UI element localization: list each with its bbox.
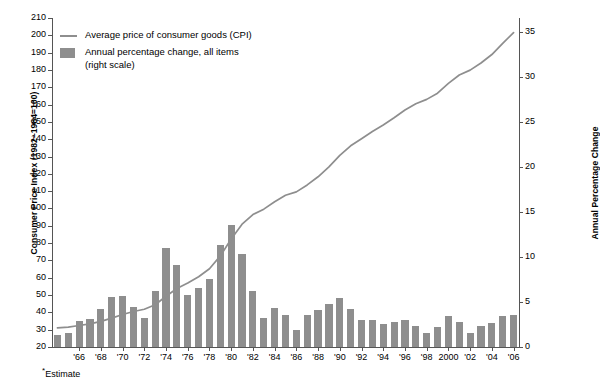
x-tick-mark [448, 348, 449, 351]
bar-swatch-icon [60, 48, 75, 58]
x-tick-mark [101, 348, 102, 351]
x-tick-label: '96 [399, 352, 411, 362]
chart-legend: Average price of consumer goods (CPI) An… [60, 28, 360, 75]
x-tick-mark [209, 348, 210, 351]
x-tick-label: '06 [508, 352, 520, 362]
y-left-tick-label: 120 [20, 169, 46, 178]
x-tick-label: 2000 [438, 352, 458, 362]
x-tick-mark [79, 348, 80, 351]
x-tick-mark [514, 348, 515, 351]
y-left-tick-label: 80 [20, 238, 46, 247]
x-tick-mark [405, 348, 406, 351]
y-left-tick-label: 70 [20, 255, 46, 264]
x-tick-mark [340, 348, 341, 351]
y-axis-right-title: Annual Percentage Change [590, 93, 600, 273]
legend-label-cpi: Average price of consumer goods (CPI) [85, 28, 252, 42]
x-tick-mark [383, 348, 384, 351]
y-right-tick-label: 15 [525, 207, 551, 216]
y-right-tick-label: 0 [525, 342, 551, 351]
x-tick-mark [166, 348, 167, 351]
y-axis-right-ticks: 35302520151050 [525, 0, 551, 386]
x-tick-label: '04 [486, 352, 498, 362]
x-tick-label: '92 [356, 352, 368, 362]
x-tick-mark [275, 348, 276, 351]
x-tick-label: '02 [464, 352, 476, 362]
x-tick-label: '74 [160, 352, 172, 362]
y-right-tick-label: 25 [525, 117, 551, 126]
footnote-text: Estimate [45, 369, 80, 379]
x-tick-label: '72 [138, 352, 150, 362]
y-left-tick-label: 210 [20, 13, 46, 22]
x-tick-label: '98 [421, 352, 433, 362]
y-left-tick-label: 190 [20, 48, 46, 57]
cpi-line-path [57, 33, 513, 328]
x-tick-label: '76 [182, 352, 194, 362]
x-tick-label: '84 [269, 352, 281, 362]
y-left-tick-label: 90 [20, 221, 46, 230]
x-tick-label: '86 [290, 352, 302, 362]
y-left-tick-label: 180 [20, 65, 46, 74]
y-right-tick-label: 30 [525, 72, 551, 81]
y-right-tick-label: 5 [525, 297, 551, 306]
x-tick-label: '68 [95, 352, 107, 362]
legend-label-annual-change: Annual percentage change, all items [85, 45, 239, 59]
y-left-tick-label: 100 [20, 203, 46, 212]
x-tick-label: '94 [377, 352, 389, 362]
y-right-tick-label: 20 [525, 162, 551, 171]
y-left-tick-label: 40 [20, 307, 46, 316]
y-left-tick-label: 200 [20, 30, 46, 39]
x-axis-labels: '66'68'70'72'74'76'78'80'82'84'86'88'90'… [0, 352, 592, 368]
y-left-tick-label: 150 [20, 117, 46, 126]
x-tick-label: '80 [225, 352, 237, 362]
x-tick-label: '78 [204, 352, 216, 362]
x-tick-mark [362, 348, 363, 351]
y-left-tick-label: 160 [20, 100, 46, 109]
x-tick-label: '70 [117, 352, 129, 362]
x-tick-mark [318, 348, 319, 351]
y-right-tick-label: 10 [525, 252, 551, 261]
y-left-tick-label: 20 [20, 342, 46, 351]
legend-item-annual-change: Annual percentage change, all items (rig… [60, 45, 360, 73]
x-tick-mark [188, 348, 189, 351]
y-left-tick-label: 130 [20, 152, 46, 161]
y-left-tick-label: 170 [20, 82, 46, 91]
x-tick-mark [144, 348, 145, 351]
x-tick-mark [492, 348, 493, 351]
x-tick-mark [231, 348, 232, 351]
y-left-tick-label: 60 [20, 273, 46, 282]
x-tick-mark [123, 348, 124, 351]
y-left-tick-label: 50 [20, 290, 46, 299]
x-tick-label: '88 [312, 352, 324, 362]
y-left-tick-label: 30 [20, 325, 46, 334]
line-swatch-icon [60, 35, 77, 37]
y-right-tick-label: 35 [525, 27, 551, 36]
legend-item-cpi-line: Average price of consumer goods (CPI) [60, 28, 360, 43]
x-tick-mark [296, 348, 297, 351]
x-tick-mark [427, 348, 428, 351]
x-tick-label: '82 [247, 352, 259, 362]
x-tick-mark [253, 348, 254, 351]
y-axis-left-ticks: 2102001901801701601501401301201101009080… [20, 0, 46, 386]
footnote: *Estimate [42, 366, 80, 379]
y-left-tick-label: 110 [20, 186, 46, 195]
x-tick-mark [470, 348, 471, 351]
legend-label-annual-change-line2: (right scale) [85, 58, 135, 72]
x-tick-label: '66 [73, 352, 85, 362]
axis-line-right [519, 18, 520, 348]
x-tick-label: '90 [334, 352, 346, 362]
y-left-tick-label: 140 [20, 134, 46, 143]
